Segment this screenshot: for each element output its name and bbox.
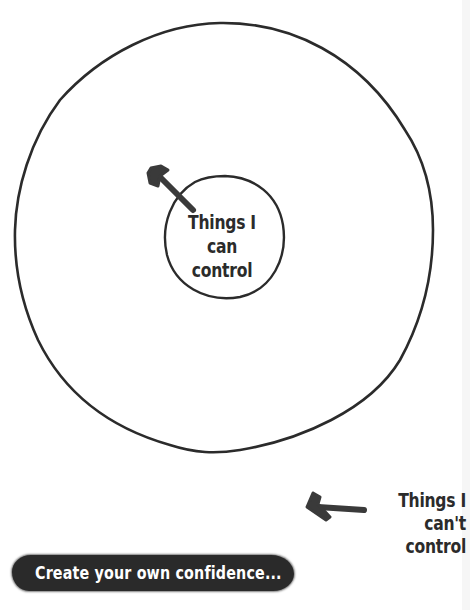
banner-text: Create your own confidence... [35,562,282,584]
outer-label-line1: Things I [369,489,466,512]
inner-circle-label: Things I can control [171,210,273,282]
inner-label-line1: Things I can [171,210,273,258]
inner-label-line2: control [171,258,273,282]
arrow-left-icon [307,493,364,520]
outer-area-label: Things I can't control [369,489,466,558]
outer-label-line2: can't control [369,512,466,558]
